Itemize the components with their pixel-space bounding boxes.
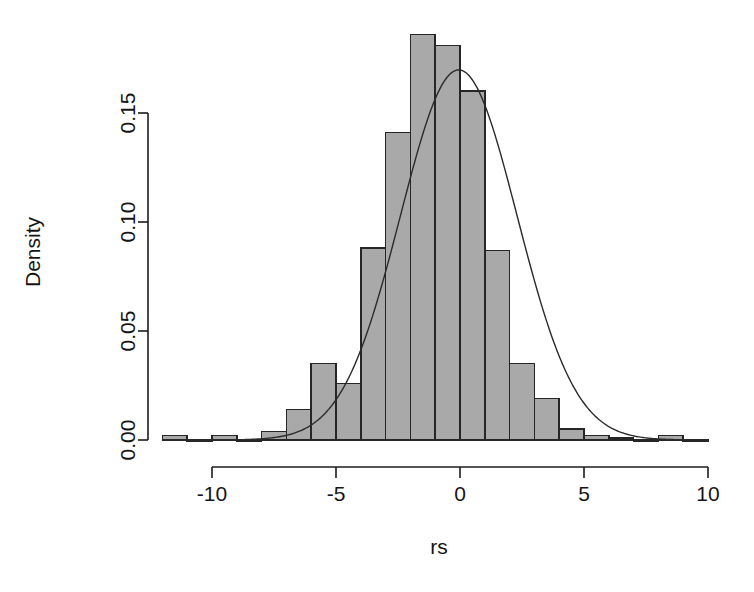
- histogram-bar: [559, 429, 584, 440]
- plot-canvas: 0.000.050.100.15 -10-50510 rs Density: [0, 0, 754, 592]
- y-axis-title: Density: [21, 216, 44, 287]
- histogram-bar: [510, 364, 535, 440]
- histogram-bar: [361, 248, 386, 440]
- y-tick-labels: 0.000.050.100.15: [116, 93, 139, 461]
- histogram-bar: [386, 133, 411, 440]
- histogram-bar: [410, 35, 435, 440]
- x-tick-labels: -10-50510: [197, 482, 720, 505]
- histogram-bar: [534, 399, 559, 440]
- histogram-bar: [634, 440, 659, 441]
- x-tick-label: 10: [696, 482, 719, 505]
- x-axis: [212, 467, 708, 478]
- y-axis: [138, 113, 148, 440]
- histogram-bar: [311, 364, 336, 440]
- bars-group: [162, 35, 708, 441]
- histogram-bar: [336, 383, 361, 440]
- x-axis-title: rs: [430, 535, 448, 558]
- histogram-bar: [485, 250, 510, 440]
- histogram-bar: [584, 436, 609, 440]
- histogram-bar: [286, 409, 311, 440]
- y-tick-label: 0.15: [116, 93, 139, 134]
- histogram-plot: 0.000.050.100.15 -10-50510 rs Density: [0, 0, 754, 592]
- y-tick-label: 0.00: [116, 420, 139, 461]
- y-tick-label: 0.10: [116, 202, 139, 243]
- x-tick-label: -5: [327, 482, 346, 505]
- x-tick-label: 0: [454, 482, 466, 505]
- histogram-bar: [460, 91, 485, 440]
- y-tick-label: 0.05: [116, 311, 139, 352]
- histogram-bar: [435, 45, 460, 440]
- histogram-bar: [609, 438, 634, 440]
- x-tick-label: 5: [578, 482, 590, 505]
- x-tick-label: -10: [197, 482, 227, 505]
